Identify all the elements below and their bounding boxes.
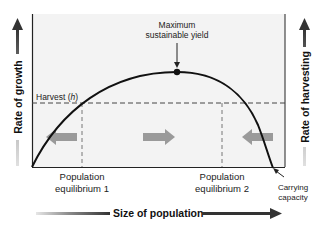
- max-yield-label-2: sustainable yield: [146, 30, 209, 40]
- harvest-label: Harvest (h): [36, 92, 78, 102]
- equilibrium-1-label-2: equilibrium 1: [55, 183, 109, 194]
- y-axis-left-arrowhead: [12, 18, 23, 30]
- equilibrium-1-label-1: Population: [60, 171, 105, 182]
- x-axis-arrow-shaft-left: [36, 212, 110, 215]
- equilibrium-2-label-1: Population: [200, 171, 245, 182]
- equilibrium-2-label-2: equilibrium 2: [195, 183, 249, 194]
- max-yield-point: [174, 69, 180, 75]
- y-axis-right-arrowhead: [299, 18, 310, 30]
- y-axis-left-label: Rate of growth: [12, 60, 24, 134]
- x-axis-arrowhead: [270, 208, 282, 219]
- carrying-capacity-label-2: capacity: [278, 193, 307, 202]
- max-yield-label-1: Maximum: [159, 20, 196, 30]
- y-axis-right-label: Rate of harvesting: [299, 51, 311, 143]
- x-axis-arrow-shaft-right: [202, 212, 270, 215]
- population-harvest-diagram: Maximum sustainable yield Harvest (h) Po…: [0, 0, 322, 228]
- x-axis-label: Size of population: [113, 207, 203, 219]
- carrying-capacity-label-1: Carrying: [278, 183, 308, 192]
